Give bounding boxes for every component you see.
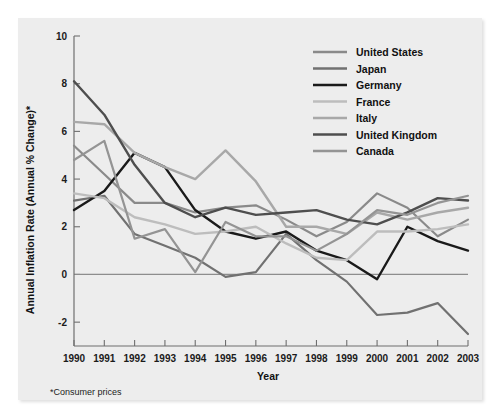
chart-legend: United StatesJapanGermanyFranceItalyUnit… [313,46,437,157]
legend-label-italy: Italy [356,112,377,124]
y-tick-label: 6 [61,126,67,137]
x-tick-label: 1994 [184,353,207,364]
footnote-consumer-prices: *Consumer prices [50,387,122,397]
y-tick-label: 2 [61,221,67,232]
x-tick-label: 1997 [275,353,298,364]
x-tick-label: 2003 [457,353,480,364]
y-axis-title: Annual Inflation Rate (Annual % Change)* [24,105,36,314]
y-tick-label: 8 [61,78,67,89]
y-axis-ticks [74,36,80,322]
x-tick-label: 1991 [93,353,116,364]
legend-label-united-kingdom: United Kingdom [356,129,437,141]
x-tick-labels: 1990199119921993199419951996199719981999… [63,353,480,364]
y-tick-label: 0 [61,269,67,280]
x-tick-label: 1995 [214,353,237,364]
series-lines [74,81,468,334]
x-tick-label: 2002 [427,353,450,364]
x-tick-label: 1998 [305,353,328,364]
legend-label-germany: Germany [356,79,402,91]
series-line-united-states [74,146,468,237]
x-tick-label: 1996 [245,353,268,364]
y-tick-label: -2 [58,317,67,328]
y-tick-labels: -20246810 [56,31,68,328]
legend-label-united-states: United States [356,46,423,58]
x-tick-label: 1999 [336,353,359,364]
inflation-line-chart: -20246810 199019911992199319941995199619… [18,18,482,400]
x-axis-title: Year [257,370,279,382]
y-tick-label: 10 [56,31,68,42]
x-axis-ticks [74,340,468,346]
x-tick-label: 1990 [63,353,86,364]
legend-label-france: France [356,96,391,108]
chart-panel: -20246810 199019911992199319941995199619… [18,18,482,400]
x-tick-label: 2001 [396,353,419,364]
legend-label-japan: Japan [356,63,386,75]
x-tick-label: 1993 [154,353,177,364]
legend-label-canada: Canada [356,145,394,157]
x-tick-label: 2000 [366,353,389,364]
y-tick-label: 4 [61,174,67,185]
x-tick-label: 1992 [123,353,146,364]
